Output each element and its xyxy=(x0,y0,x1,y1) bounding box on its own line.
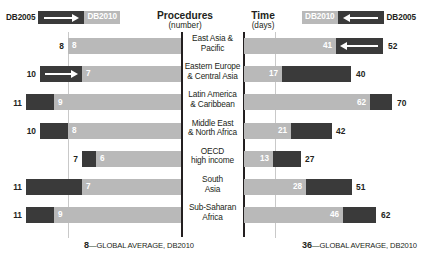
bar-time: 62 xyxy=(244,94,392,110)
bar-procedures-db2010-value: 9 xyxy=(58,210,63,219)
footnote-time-value: 36 xyxy=(302,240,312,250)
bar-time-db2005-value: 62 xyxy=(381,210,390,220)
row-label: OECD high income xyxy=(183,147,242,166)
bar-procedures-db2010-value: 8 xyxy=(72,126,77,135)
bar-procedures: 9 xyxy=(26,94,181,110)
bar-time-db2005 xyxy=(306,179,352,195)
tick-procedures xyxy=(181,230,183,237)
row-label: Sub-Saharan Africa xyxy=(183,203,242,222)
footnote-time-text: —GLOBAL AVERAGE, DB2010 xyxy=(312,241,417,250)
row-label: Middle East & North Africa xyxy=(183,119,242,138)
bar-procedures-db2005-value: 11 xyxy=(13,182,22,192)
plot-area: 8 8 East Asia & Pacific 41 52 xyxy=(0,32,422,230)
table-row: 6 7 OECD high income 13 27 xyxy=(0,145,422,173)
bar-time-db2005-value: 42 xyxy=(336,126,345,136)
bar-procedures: 6 xyxy=(82,151,181,167)
bar-time-db2010-value: 62 xyxy=(357,98,366,107)
row-label: Eastern Europe & Central Asia xyxy=(183,62,242,81)
bar-procedures: 8 xyxy=(68,38,181,54)
bar-procedures-db2005-value: 8 xyxy=(59,41,64,51)
bar-procedures-db2010-value: 9 xyxy=(58,98,63,107)
table-row: 8 10 Middle East & North Africa 21 42 xyxy=(0,117,422,145)
bar-procedures-db2005-value: 10 xyxy=(27,126,36,136)
bar-procedures-db2005 xyxy=(26,207,54,223)
bar-procedures-db2005-value: 7 xyxy=(73,154,78,164)
bar-time-db2010 xyxy=(244,94,370,110)
bar-procedures-db2010-value: 8 xyxy=(72,41,77,50)
bar-procedures-db2010 xyxy=(96,151,181,167)
bar-procedures-db2010-value: 7 xyxy=(86,182,91,191)
chart-figure: DB2005 DB2010 Procedures (number) Time (… xyxy=(0,0,422,266)
legend-right-to-label: DB2010 xyxy=(302,11,337,24)
bar-procedures-db2010 xyxy=(68,38,181,54)
bar-time: 13 xyxy=(244,151,301,167)
bar-procedures-db2005-value: 11 xyxy=(13,210,22,220)
footnote-time: 36—GLOBAL AVERAGE, DB2010 xyxy=(302,241,422,250)
bar-procedures-db2005 xyxy=(26,94,54,110)
bar-time: 41 xyxy=(244,38,383,54)
bar-time-db2010 xyxy=(244,207,343,223)
bar-procedures-db2010 xyxy=(54,94,181,110)
bar-time-db2005-value: 51 xyxy=(356,182,365,192)
bar-procedures-db2005 xyxy=(26,179,82,195)
legend-left-from-label: DB2005 xyxy=(6,13,35,22)
bar-procedures: 7 xyxy=(26,179,181,195)
footnote-procedures-text: —GLOBAL AVERAGE, DB2010 xyxy=(89,241,194,250)
legend-left-to-label: DB2010 xyxy=(84,11,119,24)
legend-right-from-label: DB2005 xyxy=(387,13,416,22)
bar-procedures: 9 xyxy=(26,207,181,223)
bar-procedures-db2010-value: 6 xyxy=(100,154,105,163)
bar-procedures-db2005 xyxy=(40,123,68,139)
tick-time xyxy=(243,230,245,237)
bar-time-db2005-value: 70 xyxy=(397,98,406,108)
bar-time-db2005-value: 40 xyxy=(356,69,365,79)
table-row: 7 11 South Asia 28 51 xyxy=(0,173,422,201)
bar-time-db2010-value: 21 xyxy=(278,126,287,135)
bar-procedures: 8 xyxy=(40,123,181,139)
bar-procedures-db2005-value: 11 xyxy=(13,98,22,108)
column-title-time: Time (days) xyxy=(228,10,298,31)
row-label: East Asia & Pacific xyxy=(183,34,242,53)
procedures-subtitle: (number) xyxy=(140,21,230,31)
arrow-left-icon xyxy=(338,11,384,24)
bar-time-db2010-value: 13 xyxy=(260,154,269,163)
bar-time-db2005 xyxy=(291,123,332,139)
bar-time-db2005 xyxy=(343,207,376,223)
arrow-left-icon xyxy=(336,38,383,54)
table-row: 8 8 East Asia & Pacific 41 52 xyxy=(0,32,422,60)
column-title-procedures: Procedures (number) xyxy=(140,10,230,31)
bar-procedures-db2010 xyxy=(82,66,181,82)
bar-procedures-db2005 xyxy=(40,66,82,82)
bar-time-db2010-value: 28 xyxy=(293,182,302,191)
table-row: 9 11 Latin America & Caribbean 62 70 xyxy=(0,88,422,116)
table-row: 7 10 Eastern Europe & Central Asia 17 40 xyxy=(0,60,422,88)
legend-time: DB2010 DB2005 xyxy=(302,11,416,24)
bar-procedures-db2010 xyxy=(68,123,181,139)
bar-time-db2005 xyxy=(282,66,351,82)
procedures-title: Procedures xyxy=(140,10,230,21)
bar-time-db2010-value: 46 xyxy=(330,210,339,219)
row-label: South Asia xyxy=(183,175,242,194)
bar-time-db2010-value: 17 xyxy=(269,69,278,78)
footnote-procedures: 8—GLOBAL AVERAGE, DB2010 xyxy=(84,241,234,250)
bar-time-db2010-value: 41 xyxy=(323,41,332,50)
bar-time-db2005-value: 52 xyxy=(388,41,397,51)
table-row: 9 11 Sub-Saharan Africa 46 62 xyxy=(0,201,422,229)
bar-procedures-db2010-value: 7 xyxy=(86,69,91,78)
time-title: Time xyxy=(228,10,298,21)
bar-time: 28 xyxy=(244,179,352,195)
time-subtitle: (days) xyxy=(228,21,298,31)
row-label: Latin America & Caribbean xyxy=(183,90,242,109)
bar-time: 46 xyxy=(244,207,376,223)
bar-procedures-db2005-value: 10 xyxy=(27,69,36,79)
bar-time: 21 xyxy=(244,123,332,139)
bar-procedures: 7 xyxy=(40,66,181,82)
bar-procedures-db2005 xyxy=(82,151,96,167)
bar-time-db2005 xyxy=(273,151,301,167)
bar-time: 17 xyxy=(244,66,351,82)
bar-time-db2005 xyxy=(336,38,383,54)
arrow-right-icon xyxy=(40,66,82,82)
arrow-right-icon xyxy=(38,11,84,24)
bar-procedures-db2010 xyxy=(82,179,181,195)
bar-time-db2005-value: 27 xyxy=(305,154,314,164)
